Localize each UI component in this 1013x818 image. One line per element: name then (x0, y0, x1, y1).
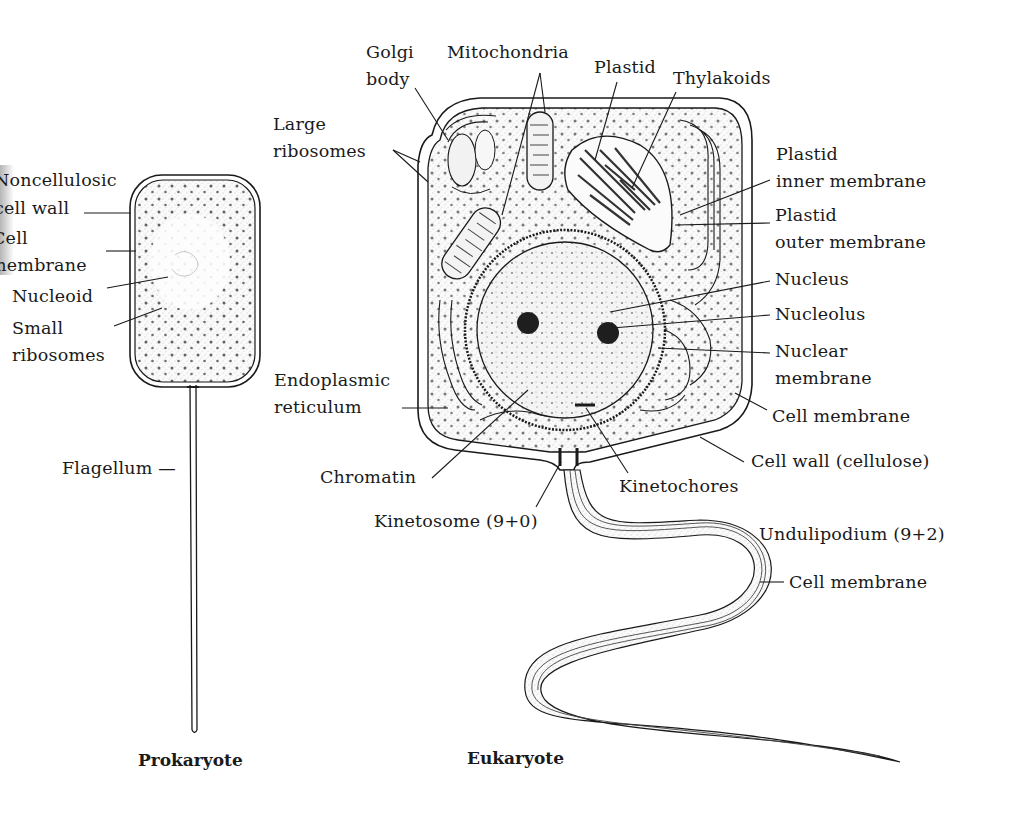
prokaryote-cell (84, 175, 260, 733)
label-golgi-body-line2: body (366, 67, 410, 92)
label-small-ribosomes-line1: Small (12, 316, 63, 341)
label-large-ribosomes-line1: Large (273, 112, 326, 137)
label-nucleoid: Nucleoid (12, 284, 93, 309)
label-endoplasmic-reticulum-line1: Endoplasmic (274, 368, 390, 393)
caption-prokaryote: Prokaryote (138, 750, 243, 770)
label-undulipodium-cell-membrane: Cell membrane (789, 570, 927, 595)
label-mitochondria: Mitochondria (447, 40, 569, 65)
label-plastid-outer-membrane-line2: outer membrane (775, 230, 926, 255)
label-kinetochores: Kinetochores (619, 474, 739, 499)
label-thylakoids: Thylakoids (673, 66, 771, 91)
undulipodium (525, 470, 900, 762)
label-kinetosome: Kinetosome (9+0) (374, 509, 538, 534)
label-endoplasmic-reticulum-line2: reticulum (274, 395, 362, 420)
label-plastid-inner-membrane-line1: Plastid (776, 142, 838, 167)
label-undulipodium: Undulipodium (9+2) (759, 522, 945, 547)
label-prokaryote-cell-membrane-line2: membrane (0, 253, 87, 278)
label-cell-membrane: Cell membrane (772, 404, 910, 429)
label-noncellulosic-cell-wall-line2: cell wall (0, 196, 69, 221)
label-plastid: Plastid (594, 55, 656, 80)
label-chromatin: Chromatin (320, 465, 416, 490)
label-small-ribosomes-line2: ribosomes (12, 343, 105, 368)
cell-comparison-diagram: Noncellulosic cell wall Cell membrane Nu… (0, 0, 1013, 818)
label-plastid-outer-membrane-line1: Plastid (775, 203, 837, 228)
label-large-ribosomes-line2: ribosomes (273, 139, 366, 164)
mitochondrion-upper (527, 112, 553, 190)
label-noncellulosic-cell-wall-line1: Noncellulosic (0, 168, 117, 193)
label-flagellum: Flagellum — (62, 456, 176, 481)
label-nuclear-membrane-line1: Nuclear (775, 339, 848, 364)
label-prokaryote-cell-membrane-line1: Cell (0, 226, 28, 251)
label-nucleolus: Nucleolus (775, 302, 866, 327)
label-nucleus: Nucleus (775, 267, 849, 292)
label-nuclear-membrane-line2: membrane (775, 366, 872, 391)
label-golgi-body-line1: Golgi (366, 40, 414, 65)
caption-eukaryote: Eukaryote (467, 748, 564, 768)
label-plastid-inner-membrane-line2: inner membrane (776, 169, 926, 194)
label-cell-wall-cellulose: Cell wall (cellulose) (751, 449, 930, 474)
